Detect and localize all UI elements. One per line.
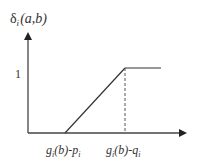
membership-function-diagram: δi(a,b) 1 gi(b)-pi gi(b)-qi	[0, 0, 202, 168]
x-tick-label-p: gi(b)-pi	[46, 143, 80, 159]
x-tick-label-q: gi(b)-qi	[106, 143, 140, 159]
y-axis-label: δi(a,b)	[10, 11, 47, 28]
ramp-line	[65, 68, 125, 133]
y-tick-1: 1	[15, 67, 21, 81]
